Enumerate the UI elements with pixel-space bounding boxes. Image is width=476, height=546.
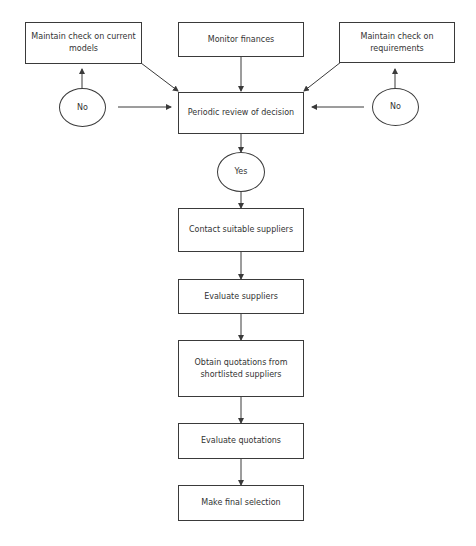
node-obtain-quotations: Obtain quotations from shortlisted suppl… xyxy=(178,340,304,397)
node-label: Yes xyxy=(235,166,248,178)
node-label: Evaluate suppliers xyxy=(204,291,278,303)
node-label: Obtain quotations from shortlisted suppl… xyxy=(183,357,299,381)
node-label: Evaluate quotations xyxy=(201,435,281,447)
decision-yes: Yes xyxy=(217,152,265,192)
decision-no-right: No xyxy=(372,88,419,126)
node-periodic-review: Periodic review of decision xyxy=(178,92,304,134)
node-maintain-check-requirements: Maintain check on requirements xyxy=(339,22,455,63)
node-label: No xyxy=(77,102,88,114)
node-contact-suppliers: Contact suitable suppliers xyxy=(178,208,304,252)
connector-lines xyxy=(0,0,476,546)
supplier-selection-flowchart: Maintain check on current models Monitor… xyxy=(0,0,476,546)
arrow-models-to-review xyxy=(141,63,178,91)
node-monitor-finances: Monitor finances xyxy=(178,22,304,57)
node-label: Maintain check on requirements xyxy=(344,31,450,55)
decision-no-left: No xyxy=(59,88,106,127)
node-label: Maintain check on current models xyxy=(30,31,137,55)
node-label: Periodic review of decision xyxy=(188,107,294,119)
node-label: Make final selection xyxy=(201,497,280,509)
arrow-requirements-to-review xyxy=(304,62,341,91)
node-label: No xyxy=(390,101,401,113)
node-label: Contact suitable suppliers xyxy=(189,224,293,236)
node-evaluate-suppliers: Evaluate suppliers xyxy=(178,279,304,314)
node-make-final-selection: Make final selection xyxy=(178,485,304,521)
node-maintain-check-models: Maintain check on current models xyxy=(25,22,142,64)
node-evaluate-quotations: Evaluate quotations xyxy=(178,423,304,459)
node-label: Monitor finances xyxy=(208,34,275,46)
